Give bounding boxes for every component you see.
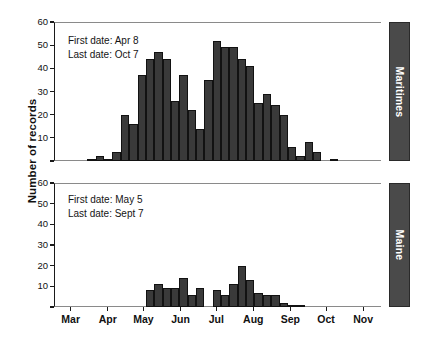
bar bbox=[179, 75, 187, 161]
bar bbox=[146, 290, 154, 307]
bar bbox=[179, 278, 187, 307]
bar bbox=[204, 80, 212, 161]
y-tick-label: 20 bbox=[37, 109, 48, 120]
bar bbox=[254, 103, 262, 161]
bar bbox=[221, 47, 229, 161]
y-tick-mark bbox=[50, 45, 54, 46]
bar bbox=[238, 266, 246, 307]
x-tick-mark bbox=[363, 307, 364, 311]
x-tick-mark bbox=[253, 307, 254, 311]
bar bbox=[280, 303, 288, 307]
y-tick-mark bbox=[50, 224, 54, 225]
bar bbox=[263, 295, 271, 307]
x-tick-mark bbox=[70, 307, 71, 311]
panel-maritimes: 102030405060 First date: Apr 8 Last date… bbox=[54, 22, 381, 161]
bar bbox=[163, 288, 171, 307]
bar bbox=[96, 156, 104, 161]
region-tab-maine: Maine bbox=[389, 183, 410, 307]
bar bbox=[246, 280, 254, 307]
region-tab-maritimes: Maritimes bbox=[389, 22, 410, 161]
bar bbox=[288, 147, 296, 161]
bar bbox=[154, 284, 162, 307]
y-tick-mark bbox=[50, 91, 54, 92]
y-tick-label: 10 bbox=[37, 280, 48, 291]
y-tick-label: 40 bbox=[37, 62, 48, 73]
bar bbox=[280, 115, 288, 161]
y-tick-mark bbox=[50, 68, 54, 69]
y-tick-label: 40 bbox=[37, 218, 48, 229]
y-tick-mark bbox=[50, 265, 54, 266]
x-tick-label: Nov bbox=[341, 313, 385, 325]
bar bbox=[112, 152, 120, 161]
x-tick-mark bbox=[180, 307, 181, 311]
bar bbox=[87, 159, 95, 161]
y-tick-mark bbox=[50, 306, 54, 307]
y-tick-mark bbox=[50, 286, 54, 287]
bar bbox=[104, 159, 112, 161]
bar bbox=[313, 152, 321, 161]
bar bbox=[171, 101, 179, 161]
y-tick-label: 50 bbox=[37, 39, 48, 50]
bar bbox=[196, 288, 204, 307]
y-tick-label: 10 bbox=[37, 132, 48, 143]
bar bbox=[254, 293, 262, 307]
annotation-first-date-maine: First date: May 5 bbox=[68, 193, 142, 207]
bar bbox=[296, 305, 304, 307]
y-tick-mark bbox=[50, 114, 54, 115]
y-tick-label: 50 bbox=[37, 198, 48, 209]
y-tick-mark bbox=[50, 203, 54, 204]
bar bbox=[305, 142, 313, 161]
bar bbox=[138, 75, 146, 161]
bar bbox=[221, 295, 229, 307]
annotation-last-date-maine: Last date: Sept 7 bbox=[68, 207, 144, 221]
bar bbox=[188, 295, 196, 307]
bar bbox=[146, 59, 154, 161]
bar bbox=[229, 47, 237, 161]
y-tick-label: 60 bbox=[37, 16, 48, 27]
y-tick-mark bbox=[50, 21, 54, 22]
bar bbox=[238, 59, 246, 161]
x-tick-mark bbox=[326, 307, 327, 311]
x-tick-mark bbox=[107, 307, 108, 311]
bar bbox=[213, 290, 221, 307]
y-tick-mark bbox=[50, 182, 54, 183]
bar bbox=[121, 115, 129, 161]
x-tick-mark bbox=[290, 307, 291, 311]
y-tick-label: 20 bbox=[37, 260, 48, 271]
bar bbox=[154, 52, 162, 161]
bar bbox=[229, 284, 237, 307]
region-tab-label-maine: Maine bbox=[394, 230, 406, 261]
bar bbox=[188, 110, 196, 161]
bar bbox=[330, 159, 338, 161]
bar bbox=[129, 124, 137, 161]
y-tick-mark bbox=[50, 160, 54, 161]
x-tick-mark bbox=[216, 307, 217, 311]
annotation-first-date-maritimes: First date: Apr 8 bbox=[68, 34, 139, 48]
bar bbox=[271, 295, 279, 307]
panel-maine: 102030405060 MarAprMayJunJulAugSepOctNov… bbox=[54, 183, 381, 307]
y-tick-mark bbox=[50, 137, 54, 138]
bar bbox=[271, 105, 279, 161]
bar bbox=[163, 59, 171, 161]
y-tick-label: 30 bbox=[37, 86, 48, 97]
x-tick-mark bbox=[143, 307, 144, 311]
bar bbox=[213, 41, 221, 161]
bar bbox=[196, 129, 204, 161]
y-tick-mark bbox=[50, 244, 54, 245]
bar bbox=[263, 94, 271, 161]
annotation-last-date-maritimes: Last date: Oct 7 bbox=[68, 48, 139, 62]
y-tick-label: 30 bbox=[37, 239, 48, 250]
bar bbox=[246, 66, 254, 161]
bar bbox=[171, 288, 179, 307]
figure-histogram-records: Number of records 102030405060 First dat… bbox=[0, 0, 432, 345]
y-axis-title: Number of records bbox=[26, 71, 38, 231]
region-tab-label-maritimes: Maritimes bbox=[394, 66, 406, 117]
bar bbox=[296, 156, 304, 161]
y-tick-label: 60 bbox=[37, 177, 48, 188]
